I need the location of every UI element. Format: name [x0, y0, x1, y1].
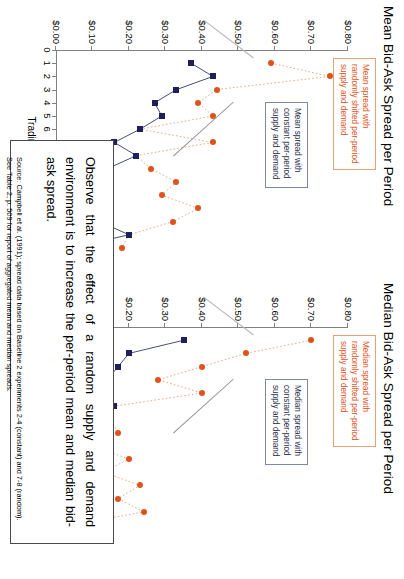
callout-constant-mean: Mean spread with constant per-period sup…: [265, 102, 308, 188]
callout-constant-median: Median spread with constant per-period s…: [265, 379, 308, 465]
callout-random-mean-text: Mean spread with randomly shifted per-pe…: [339, 64, 370, 164]
observation-note-box: Observe that the effect of a random supp…: [10, 140, 114, 544]
x-tick-label: 3: [42, 87, 53, 92]
data-point-random: [155, 377, 161, 383]
data-point-random: [195, 205, 201, 211]
data-point-constant: [126, 350, 132, 356]
data-point-random: [210, 139, 216, 145]
data-point-random: [115, 430, 121, 436]
data-point-random: [159, 192, 165, 198]
chart-title-median: Median Bid-Ask Spread per Period: [381, 283, 396, 545]
chart-title-mean: Mean Bid-Ask Spread per Period: [381, 6, 396, 268]
x-tick-label: 4: [42, 100, 53, 105]
y-tick-label: $0.20: [124, 297, 135, 321]
data-point-random: [115, 496, 121, 502]
x-tick-label: 0: [42, 47, 53, 52]
callout-constant-mean-text: Mean spread with constant per-period sup…: [271, 108, 302, 179]
data-point-random: [137, 482, 143, 488]
y-tick-label: $0.30: [160, 20, 171, 44]
data-point-constant: [210, 73, 216, 79]
source-line-1: Source: Campbell et al. (1991); spread d…: [14, 157, 25, 527]
x-tick-label: 2: [42, 74, 53, 79]
source-line-2: See Table 2, p. 509 for report of aggreg…: [3, 157, 14, 527]
data-point-random: [195, 100, 201, 106]
y-tick-label: $0.60: [270, 20, 281, 44]
y-tick-label: $0.40: [197, 20, 208, 44]
data-point-random: [119, 245, 125, 251]
data-point-constant: [188, 60, 194, 66]
data-point-constant: [133, 153, 139, 159]
y-tick-label: $0.00: [51, 20, 62, 44]
data-point-random: [199, 364, 205, 370]
data-point-random: [170, 219, 176, 225]
data-point-random: [243, 350, 249, 356]
data-point-constant: [159, 113, 165, 119]
data-point-random: [126, 456, 132, 462]
x-tick-label: 1: [42, 61, 53, 66]
callout-random-mean: Mean spread with randomly shifted per-pe…: [333, 58, 376, 170]
y-tick-label: $0.80: [343, 20, 354, 44]
rotated-page-wrapper: Mean Bid-Ask Spread per Period Trading P…: [0, 0, 404, 579]
callout-random-median-text: Median spread with randomly shifted per-…: [339, 341, 370, 441]
y-tick-label: $0.10: [87, 20, 98, 44]
x-tick-label: 5: [42, 113, 53, 118]
data-point-constant: [173, 87, 179, 93]
data-point-constant: [181, 337, 187, 343]
data-point-constant: [137, 126, 143, 132]
y-tick-label: $0.80: [343, 297, 354, 321]
data-point-constant: [126, 232, 132, 238]
data-point-constant: [115, 364, 121, 370]
y-tick-label: $0.40: [197, 297, 208, 321]
observation-text: Observe that the effect of a random supp…: [40, 157, 99, 527]
y-tick-label: $0.30: [160, 297, 171, 321]
y-tick-label: $0.70: [306, 297, 317, 321]
document-page: Mean Bid-Ask Spread per Period Trading P…: [0, 0, 404, 579]
y-tick-label: $0.60: [270, 297, 281, 321]
x-tick-label: 6: [42, 127, 53, 132]
data-point-random: [199, 390, 205, 396]
y-tick-label: $0.50: [233, 20, 244, 44]
y-tick-label: $0.50: [233, 297, 244, 321]
data-point-random: [148, 166, 154, 172]
data-point-random: [214, 87, 220, 93]
data-point-random: [309, 337, 315, 343]
y-tick-label: $0.20: [124, 20, 135, 44]
callout-random-median: Median spread with randomly shifted per-…: [333, 335, 376, 447]
data-point-random: [268, 60, 274, 66]
data-point-random: [141, 509, 147, 515]
callout-constant-median-text: Median spread with constant per-period s…: [271, 385, 302, 456]
data-point-constant: [152, 100, 158, 106]
y-tick-label: $0.70: [306, 20, 317, 44]
data-point-random: [173, 179, 179, 185]
